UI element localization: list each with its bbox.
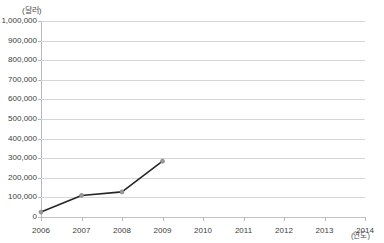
y-tick-label: 900,000: [0, 37, 37, 45]
gridline: [41, 80, 365, 81]
x-tick-mark: [284, 217, 285, 221]
y-tick-label: 300,000: [0, 154, 37, 162]
gridline: [41, 99, 365, 100]
y-tick-mark: [38, 217, 41, 218]
x-tick-label: 2009: [154, 227, 172, 235]
y-tick-mark: [38, 139, 41, 140]
y-tick-label: 600,000: [0, 95, 37, 103]
gridline: [41, 139, 365, 140]
y-tick-label: 800,000: [0, 56, 37, 64]
line-chart: (달러) 0100,000200,000300,000400,000500,00…: [0, 0, 384, 243]
x-tick-label: 2006: [32, 227, 50, 235]
y-tick-label: 700,000: [0, 76, 37, 84]
x-tick-mark: [122, 217, 123, 221]
y-tick-mark: [38, 80, 41, 81]
gridline: [41, 197, 365, 198]
x-tick-label: 2008: [113, 227, 131, 235]
y-tick-mark: [38, 21, 41, 22]
x-tick-mark: [82, 217, 83, 221]
y-tick-mark: [38, 99, 41, 100]
y-tick-mark: [38, 197, 41, 198]
x-tick-label: 2012: [275, 227, 293, 235]
gridline: [41, 21, 365, 22]
y-tick-label: 1,000,000: [0, 17, 37, 25]
gridline: [41, 178, 365, 179]
y-axis-tick-labels: 0100,000200,000300,000400,000500,000600,…: [0, 0, 37, 243]
gridline: [41, 60, 365, 61]
x-tick-label: 2013: [316, 227, 334, 235]
y-tick-mark: [38, 119, 41, 120]
y-tick-mark: [38, 41, 41, 42]
plot-area: [41, 21, 365, 217]
x-tick-mark: [365, 217, 366, 221]
y-tick-label: 500,000: [0, 115, 37, 123]
x-tick-label: 2007: [73, 227, 91, 235]
gridline: [41, 158, 365, 159]
y-tick-label: 100,000: [0, 193, 37, 201]
y-tick-mark: [38, 178, 41, 179]
x-tick-mark: [163, 217, 164, 221]
gridline: [41, 41, 365, 42]
x-axis-unit-label: (연도): [351, 229, 370, 240]
gridline: [41, 119, 365, 120]
x-tick-label: 2010: [194, 227, 212, 235]
y-tick-label: 400,000: [0, 135, 37, 143]
y-tick-mark: [38, 158, 41, 159]
x-tick-mark: [325, 217, 326, 221]
y-tick-label: 0: [0, 213, 37, 221]
x-tick-label: 2011: [235, 227, 252, 235]
y-tick-label: 200,000: [0, 174, 37, 182]
x-tick-mark: [203, 217, 204, 221]
y-tick-mark: [38, 60, 41, 61]
x-tick-mark: [41, 217, 42, 221]
x-tick-mark: [244, 217, 245, 221]
